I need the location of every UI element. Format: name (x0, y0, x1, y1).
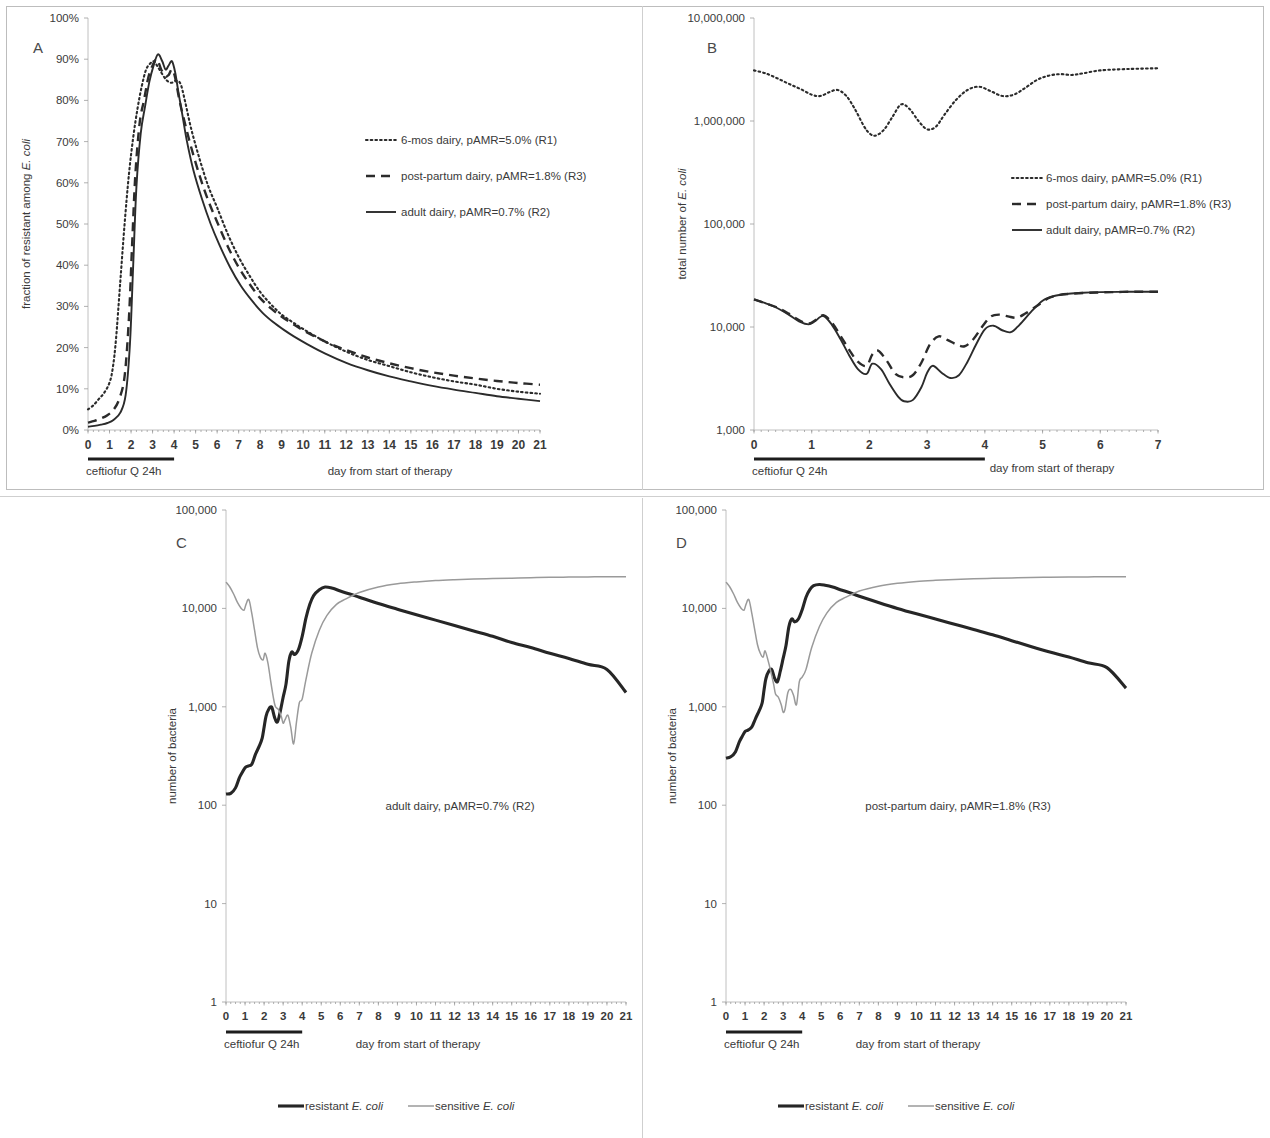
y-tick-label: 0% (62, 424, 79, 436)
x-tick-label: 5 (1039, 438, 1046, 452)
x-tick-label: 1 (106, 438, 113, 452)
series-curve (726, 584, 1126, 758)
panel-d: 1101001,00010,000100,0000123456789101112… (642, 496, 1270, 1138)
y-tick-label: 100,000 (675, 504, 717, 516)
y-tick-label: 50% (56, 218, 79, 230)
x-tick-label: 3 (149, 438, 156, 452)
y-tick-label: 90% (56, 53, 79, 65)
x-tick-label: 3 (280, 1010, 286, 1022)
x-tick-label: 16 (524, 1010, 537, 1022)
legend-label: 6-mos dairy, pAMR=5.0% (R1) (401, 134, 557, 146)
y-tick-label: 10,000 (710, 321, 745, 333)
legend-label: adult dairy, pAMR=0.7% (R2) (1046, 224, 1195, 236)
x-tick-label: 10 (910, 1010, 923, 1022)
x-tick-label: 0 (751, 438, 758, 452)
legend-label: 6-mos dairy, pAMR=5.0% (R1) (1046, 172, 1202, 184)
y-tick-label: 100 (698, 799, 717, 811)
x-tick-label: 21 (620, 1010, 633, 1022)
y-axis-title: number of bacteria (666, 707, 678, 803)
x-tick-label: 1 (242, 1010, 249, 1022)
panel-annotation: adult dairy, pAMR=0.7% (R2) (385, 800, 534, 812)
x-tick-label: 11 (429, 1010, 442, 1022)
y-tick-label: 100 (198, 799, 217, 811)
panel-letter: B (707, 39, 717, 56)
x-tick-label: 15 (505, 1010, 518, 1022)
x-tick-label: 21 (1120, 1010, 1133, 1022)
treatment-label: ceftiofur Q 24h (724, 1038, 799, 1050)
x-tick-label: 7 (356, 1010, 362, 1022)
x-tick-label: 17 (447, 438, 461, 452)
y-tick-label: 100% (50, 12, 79, 24)
x-tick-label: 0 (723, 1010, 729, 1022)
x-tick-label: 7 (235, 438, 242, 452)
x-tick-label: 7 (1155, 438, 1162, 452)
x-tick-label: 9 (894, 1010, 900, 1022)
x-tick-label: 9 (394, 1010, 400, 1022)
y-tick-label: 10,000 (682, 602, 717, 614)
treatment-label: ceftiofur Q 24h (752, 465, 827, 477)
x-tick-label: 14 (383, 438, 397, 452)
panel-letter: A (33, 39, 43, 56)
y-tick-label: 10,000 (182, 602, 217, 614)
x-tick-label: 2 (261, 1010, 267, 1022)
x-tick-label: 13 (967, 1010, 980, 1022)
x-tick-label: 6 (337, 1010, 343, 1022)
panel-letter: C (176, 534, 187, 551)
y-tick-label: 60% (56, 177, 79, 189)
x-tick-label: 20 (601, 1010, 614, 1022)
x-tick-label: 0 (85, 438, 92, 452)
y-axis-title: total number of E. coli (676, 168, 688, 280)
panel-b-chart: 1,00010,000100,0001,000,00010,000,000012… (642, 0, 1270, 492)
x-tick-label: 4 (799, 1010, 806, 1022)
x-tick-label: 21 (533, 438, 547, 452)
y-tick-label: 80% (56, 94, 79, 106)
legend-label: sensitive E. coli (435, 1100, 515, 1112)
x-tick-label: 3 (780, 1010, 786, 1022)
x-tick-label: 8 (257, 438, 264, 452)
x-tick-label: 19 (582, 1010, 595, 1022)
y-tick-label: 40% (56, 259, 79, 271)
y-tick-label: 1,000 (716, 424, 745, 436)
x-tick-label: 5 (818, 1010, 825, 1022)
legend-label: post-partum dairy, pAMR=1.8% (R3) (401, 170, 587, 182)
x-tick-label: 15 (1005, 1010, 1018, 1022)
x-tick-label: 8 (375, 1010, 382, 1022)
x-tick-label: 1 (808, 438, 815, 452)
y-tick-label: 1,000 (188, 701, 217, 713)
y-tick-label: 100,000 (703, 218, 745, 230)
x-axis-title: day from start of therapy (856, 1038, 981, 1050)
legend-label: sensitive E. coli (935, 1100, 1015, 1112)
series-curve (226, 587, 626, 794)
y-tick-label: 1,000 (688, 701, 717, 713)
x-tick-label: 6 (214, 438, 221, 452)
x-tick-label: 20 (1101, 1010, 1114, 1022)
x-axis-title: day from start of therapy (356, 1038, 481, 1050)
x-tick-label: 2 (761, 1010, 767, 1022)
panel-a-chart: 0%10%20%30%40%50%60%70%80%90%100%0123456… (0, 0, 642, 492)
x-tick-label: 18 (1062, 1010, 1075, 1022)
series-curve (88, 59, 540, 422)
series-curve (754, 292, 1158, 378)
x-tick-label: 2 (128, 438, 135, 452)
x-tick-label: 8 (875, 1010, 882, 1022)
x-tick-label: 4 (171, 438, 178, 452)
x-tick-label: 3 (924, 438, 931, 452)
x-tick-label: 17 (543, 1010, 556, 1022)
series-curve (754, 292, 1158, 402)
x-tick-label: 10 (297, 438, 311, 452)
y-tick-label: 10,000,000 (687, 12, 745, 24)
panel-d-chart: 1101001,00010,000100,0000123456789101112… (642, 496, 1270, 1138)
legend-label: post-partum dairy, pAMR=1.8% (R3) (1046, 198, 1232, 210)
x-tick-label: 12 (448, 1010, 461, 1022)
x-tick-label: 12 (340, 438, 354, 452)
y-tick-label: 1 (211, 996, 217, 1008)
x-tick-label: 5 (192, 438, 199, 452)
y-tick-label: 1,000,000 (694, 115, 745, 127)
x-axis-title: day from start of therapy (990, 462, 1115, 474)
x-tick-label: 13 (467, 1010, 480, 1022)
x-tick-label: 18 (469, 438, 483, 452)
panel-letter: D (676, 534, 687, 551)
y-tick-label: 100,000 (175, 504, 217, 516)
x-tick-label: 7 (856, 1010, 862, 1022)
x-tick-label: 2 (866, 438, 873, 452)
